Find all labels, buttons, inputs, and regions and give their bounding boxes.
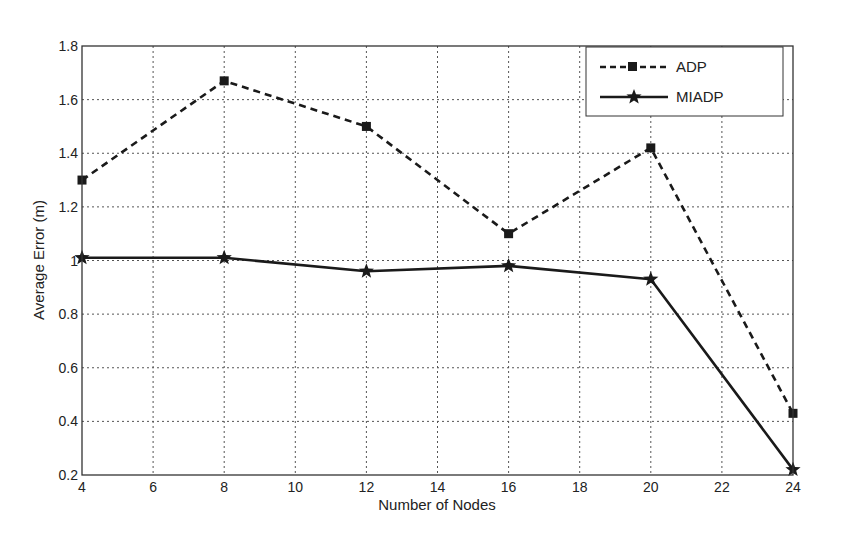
legend-adp-square-marker-icon: [628, 62, 637, 71]
x-tick-label: 6: [149, 479, 157, 495]
y-tick-label: 0.2: [59, 467, 79, 483]
y-tick-label: 1.6: [59, 92, 79, 108]
y-axis-ticks: 0.20.40.60.811.21.41.61.8: [59, 38, 79, 483]
x-tick-label: 10: [288, 479, 304, 495]
line-chart: 4681012141618202224 0.20.40.60.811.21.41…: [0, 0, 841, 533]
y-tick-label: 0.4: [59, 413, 79, 429]
y-tick-label: 1.4: [59, 145, 79, 161]
y-tick-label: 0.6: [59, 360, 79, 376]
x-tick-label: 18: [572, 479, 588, 495]
legend-miadp-label: MIADP: [676, 88, 724, 105]
x-tick-label: 12: [359, 479, 375, 495]
x-axis-title: Number of Nodes: [378, 496, 496, 513]
x-tick-label: 8: [220, 479, 228, 495]
square-marker-icon: [646, 143, 655, 152]
x-tick-label: 24: [785, 479, 801, 495]
square-marker-icon: [220, 76, 229, 85]
x-tick-label: 22: [714, 479, 730, 495]
x-tick-label: 14: [430, 479, 446, 495]
legend: ADP MIADP: [586, 47, 783, 116]
x-tick-label: 16: [501, 479, 517, 495]
star-marker-icon: [643, 271, 658, 285]
y-tick-label: 0.8: [59, 306, 79, 322]
square-marker-icon: [504, 229, 513, 238]
x-axis-ticks: 4681012141618202224: [78, 479, 801, 495]
y-tick-label: 1: [70, 253, 78, 269]
x-tick-label: 4: [78, 479, 86, 495]
legend-adp-label: ADP: [676, 58, 707, 75]
star-marker-icon: [359, 263, 374, 278]
x-tick-label: 20: [643, 479, 659, 495]
y-tick-label: 1.8: [59, 38, 79, 54]
y-tick-label: 1.2: [59, 199, 79, 215]
y-axis-title: Average Error (m): [30, 200, 47, 320]
square-marker-icon: [362, 122, 371, 131]
